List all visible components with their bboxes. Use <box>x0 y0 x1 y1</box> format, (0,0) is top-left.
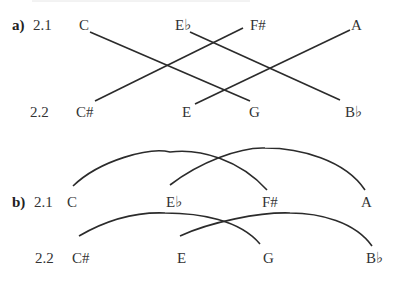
note-b-row1-f-sharp: F# <box>262 194 278 210</box>
part-a: a) 2.1 2.2 C E♭ F# A C# E G B♭ <box>12 17 362 120</box>
note-b-row2-b-flat: B♭ <box>366 250 383 266</box>
note-b-row2-c-sharp: C# <box>72 250 90 266</box>
note-b-row1-e-flat: E♭ <box>166 194 182 210</box>
note-b-row1-a: A <box>361 194 372 210</box>
part-a-row2-label: 2.2 <box>30 104 49 120</box>
note-a-row2-b-flat: B♭ <box>345 104 362 120</box>
note-a-row2-g: G <box>249 104 260 120</box>
note-b-row2-g: G <box>263 250 274 266</box>
part-b: b) 2.1 2.2 C E♭ F# A C# E G B♭ <box>12 148 383 266</box>
arc-c-sharp-to-g <box>79 213 260 244</box>
note-a-row2-e: E <box>182 104 191 120</box>
arc-e-flat-to-a <box>170 148 365 190</box>
note-a-row1-c: C <box>79 17 89 33</box>
note-a-row1-a: A <box>351 17 362 33</box>
pitch-pairing-diagram: a) 2.1 2.2 C E♭ F# A C# E G B♭ b) 2.1 2.… <box>0 0 394 282</box>
note-a-row1-f-sharp: F# <box>250 17 266 33</box>
part-b-label: b) <box>12 194 25 211</box>
line-e-to-a <box>195 30 350 104</box>
part-b-row2-label: 2.2 <box>35 250 54 266</box>
note-b-row1-c: C <box>67 194 77 210</box>
note-a-row1-e-flat: E♭ <box>175 17 191 33</box>
part-a-row1-label: 2.1 <box>33 17 52 33</box>
note-a-row2-c-sharp: C# <box>76 104 94 120</box>
part-b-row1-label: 2.1 <box>34 194 53 210</box>
line-e-flat-to-b-flat <box>190 32 340 100</box>
line-c-to-g <box>90 32 250 101</box>
part-a-label: a) <box>12 17 25 34</box>
note-b-row2-e: E <box>177 250 186 266</box>
line-c-sharp-to-f-sharp <box>95 28 243 101</box>
